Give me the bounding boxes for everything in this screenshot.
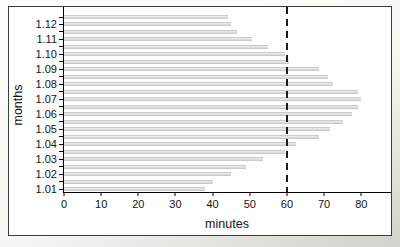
- x-tick-label: 10: [95, 198, 107, 210]
- bar: [64, 22, 231, 26]
- y-tick-label: 1.10: [36, 48, 57, 60]
- y-axis-tick: [59, 129, 63, 130]
- y-tick-label: 1.06: [36, 108, 57, 120]
- bar: [64, 180, 213, 184]
- bar: [64, 150, 285, 154]
- bar: [64, 142, 296, 146]
- bar: [64, 97, 361, 101]
- y-axis-tick: [59, 166, 63, 167]
- y-tick-label: 1.12: [36, 18, 57, 30]
- reference-line-60: [286, 7, 288, 192]
- y-tick-label: 1.01: [36, 183, 57, 195]
- y-axis-tick: [59, 24, 63, 25]
- bar: [64, 30, 237, 34]
- bar: [64, 112, 352, 116]
- x-axis-tick: [286, 192, 287, 196]
- y-tick-label: 1.02: [36, 168, 57, 180]
- bar: [64, 82, 333, 86]
- y-axis-tick: [59, 99, 63, 100]
- y-axis-tick: [59, 121, 63, 122]
- y-axis-title: months: [11, 85, 25, 126]
- bar: [64, 157, 263, 161]
- x-tick-label: 60: [281, 198, 293, 210]
- bar: [64, 90, 358, 94]
- y-axis-tick: [59, 91, 63, 92]
- y-axis-tick: [59, 189, 63, 190]
- y-axis-tick: [59, 151, 63, 152]
- y-tick-label: 1.04: [36, 138, 57, 150]
- y-tick-label: 1.09: [36, 63, 57, 75]
- y-axis-tick: [59, 17, 63, 18]
- x-axis-tick: [101, 192, 102, 196]
- bar-chart-figure: months 1.121.111.101.091.081.071.061.051…: [8, 6, 392, 236]
- x-axis-title: minutes: [63, 217, 391, 231]
- x-tick-label: 0: [61, 198, 67, 210]
- y-tick-label: 1.08: [36, 78, 57, 90]
- bar: [64, 120, 343, 124]
- bar: [64, 67, 319, 71]
- x-tick-label: 80: [355, 198, 367, 210]
- bar: [64, 127, 330, 131]
- y-axis-tick: [59, 76, 63, 77]
- x-tick-label: 40: [207, 198, 219, 210]
- bar: [64, 15, 228, 19]
- bar: [64, 135, 319, 139]
- y-axis-tick: [59, 84, 63, 85]
- bar: [64, 45, 268, 49]
- y-tick-label: 1.11: [36, 33, 57, 45]
- bar: [64, 165, 246, 169]
- x-axis-tick: [324, 192, 325, 196]
- y-axis-tick: [59, 69, 63, 70]
- y-tick-label: 1.05: [36, 123, 57, 135]
- x-axis-tick: [212, 192, 213, 196]
- x-axis-tick: [175, 192, 176, 196]
- bar: [64, 60, 289, 64]
- x-axis-tick: [138, 192, 139, 196]
- y-axis-tick: [59, 181, 63, 182]
- bar: [64, 75, 328, 79]
- bar: [64, 37, 252, 41]
- y-axis-tick: [59, 106, 63, 107]
- bar: [64, 187, 205, 191]
- y-axis-tick: [59, 31, 63, 32]
- x-axis-tick: [64, 192, 65, 196]
- y-axis-tick: [59, 144, 63, 145]
- x-tick-label: 20: [132, 198, 144, 210]
- x-axis-tick: [249, 192, 250, 196]
- y-axis-tick: [59, 54, 63, 55]
- y-axis-tick: [59, 114, 63, 115]
- screenshot-background: months 1.121.111.101.091.081.071.061.051…: [0, 0, 400, 247]
- y-axis-tick: [59, 159, 63, 160]
- x-tick-label: 50: [244, 198, 256, 210]
- y-axis-tick: [59, 46, 63, 47]
- x-tick-label: 30: [169, 198, 181, 210]
- y-axis-tick: [59, 174, 63, 175]
- plot-area: 1.121.111.101.091.081.071.061.051.041.03…: [63, 7, 391, 193]
- y-tick-label: 1.03: [36, 153, 57, 165]
- y-axis-tick: [59, 136, 63, 137]
- bar: [64, 105, 358, 109]
- y-tick-label: 1.07: [36, 93, 57, 105]
- x-tick-label: 70: [318, 198, 330, 210]
- y-axis-tick: [59, 39, 63, 40]
- bar: [64, 172, 231, 176]
- x-axis-tick: [361, 192, 362, 196]
- y-axis-tick: [59, 61, 63, 62]
- bar: [64, 52, 285, 56]
